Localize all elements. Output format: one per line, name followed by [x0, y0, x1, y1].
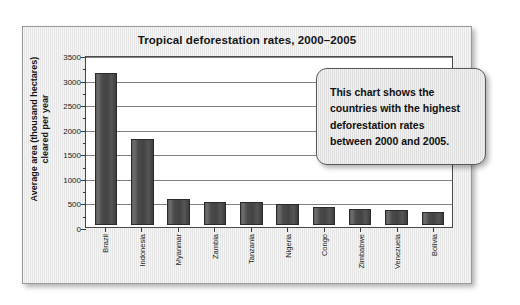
y-axis-minor-tick	[83, 69, 86, 70]
y-axis-tick	[81, 180, 86, 181]
x-axis-tick-slot	[416, 228, 453, 232]
x-axis-label-slot: Indonesia	[124, 234, 161, 292]
x-axis-tick-slot	[379, 228, 416, 232]
y-axis-tick-label: 3500	[63, 53, 81, 62]
bar-brazil	[95, 73, 118, 225]
callout-line-1: This chart shows the	[330, 86, 434, 98]
x-axis-tick	[324, 228, 325, 232]
bar-myanmar	[167, 199, 190, 226]
x-axis-label-bolivia: Bolivia	[429, 234, 438, 256]
screenshot-root: Tropical deforestation rates, 2000–2005 …	[0, 0, 520, 305]
y-axis-minor-tick	[83, 143, 86, 144]
y-axis-minor-tick	[83, 94, 86, 95]
y-axis-tick-label: 2000	[63, 126, 81, 135]
x-axis-tick	[105, 228, 106, 232]
bar-indonesia	[131, 139, 154, 225]
y-axis-title-line-2: cleared per year	[40, 94, 50, 163]
x-axis-tick-slot	[270, 228, 307, 232]
x-axis-label-slot: Zimbabwe	[343, 234, 380, 292]
x-axis-tick	[397, 228, 398, 232]
x-axis-label-indonesia: Indonesia	[137, 234, 146, 267]
chart-title: Tropical deforestation rates, 2000–2005	[23, 34, 471, 46]
x-axis-tick	[251, 228, 252, 232]
x-axis-label-slot: Zambia	[197, 234, 234, 292]
x-axis-tick	[287, 228, 288, 232]
y-axis-tick	[81, 57, 86, 58]
callout-line-2: countries with the highest	[330, 102, 460, 114]
y-axis-minor-tick	[83, 217, 86, 218]
y-axis-tick-label: 500	[68, 200, 81, 209]
y-axis-tick	[81, 204, 86, 205]
x-axis-label-slot: Brazil	[87, 234, 124, 292]
x-axis-labels: BrazilIndonesiaMyanmarZambiaTanzaniaNige…	[87, 234, 452, 292]
x-axis-label-zimbabwe: Zimbabwe	[356, 234, 365, 269]
x-axis-label-zambia: Zambia	[210, 234, 219, 259]
x-axis-tick-slot	[160, 228, 197, 232]
y-axis-tick-label: 0	[77, 225, 81, 234]
bar-congo	[313, 207, 336, 226]
y-axis-minor-tick	[83, 192, 86, 193]
x-axis-label-myanmar: Myanmar	[174, 234, 183, 265]
bar-slot	[269, 58, 305, 225]
x-axis-label-nigeria: Nigeria	[283, 234, 292, 258]
bar-venezuela	[385, 210, 408, 225]
bar-slot	[88, 58, 124, 225]
x-axis-ticks	[87, 228, 452, 232]
x-axis-label-slot: Bolivia	[416, 234, 453, 292]
x-axis-label-congo: Congo	[320, 234, 329, 256]
x-axis-tick	[141, 228, 142, 232]
x-axis-tick-slot	[343, 228, 380, 232]
callout-text: This chart shows the countries with the …	[317, 84, 473, 150]
x-axis-label-slot: Congo	[306, 234, 343, 292]
y-axis-tick	[81, 131, 86, 132]
y-axis-title: Average area (thousand hectares) cleared…	[25, 45, 55, 213]
x-axis-tick-slot	[87, 228, 124, 232]
y-axis-tick-label: 1000	[63, 175, 81, 184]
x-axis-tick	[214, 228, 215, 232]
y-axis-tick-label: 1500	[63, 151, 81, 160]
y-axis-tick-label: 3000	[63, 77, 81, 86]
y-axis-tick	[81, 155, 86, 156]
bar-bolivia	[422, 212, 445, 226]
y-axis-minor-tick	[83, 118, 86, 119]
y-axis-tick	[81, 229, 86, 230]
callout-line-4: between 2000 and 2005.	[330, 135, 449, 147]
y-axis-title-line-1: Average area (thousand hectares)	[29, 57, 39, 202]
x-axis-tick	[433, 228, 434, 232]
x-axis-label-slot: Nigeria	[270, 234, 307, 292]
bar-tanzania	[240, 202, 263, 225]
y-axis-tick-label: 2500	[63, 102, 81, 111]
x-axis-label-venezuela: Venezuela	[393, 234, 402, 269]
bar-zambia	[204, 202, 227, 226]
x-axis-tick-slot	[124, 228, 161, 232]
x-axis-tick	[178, 228, 179, 232]
bar-slot	[161, 58, 197, 225]
bar-nigeria	[276, 204, 299, 226]
x-axis-tick	[360, 228, 361, 232]
callout-line-3: deforestation rates	[330, 119, 425, 131]
x-axis-tick-slot	[233, 228, 270, 232]
x-axis-label-slot: Myanmar	[160, 234, 197, 292]
y-axis-tick	[81, 106, 86, 107]
x-axis-tick-slot	[197, 228, 234, 232]
bar-zimbabwe	[349, 209, 372, 225]
x-axis-label-brazil: Brazil	[101, 234, 110, 253]
bar-slot	[124, 58, 160, 225]
x-axis-tick-slot	[306, 228, 343, 232]
y-axis-minor-tick	[83, 168, 86, 169]
bar-slot	[197, 58, 233, 225]
x-axis-label-slot: Venezuela	[379, 234, 416, 292]
x-axis-label-slot: Tanzania	[233, 234, 270, 292]
callout-box: This chart shows the countries with the …	[316, 68, 486, 165]
y-axis-tick	[81, 82, 86, 83]
bar-slot	[233, 58, 269, 225]
x-axis-label-tanzania: Tanzania	[247, 234, 256, 264]
